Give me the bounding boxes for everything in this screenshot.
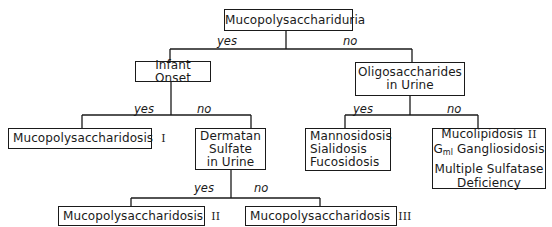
node-label: Mucopolysaccharidosis <box>13 131 153 145</box>
connector-lines <box>0 0 552 227</box>
node-dermatan-sulfate-in-urine: Dermatan Sulfate in Urine <box>195 128 266 170</box>
node-mucopolysacchariduria: Mucopolysacchariduria <box>224 9 353 31</box>
edge-label-yes: yes <box>353 102 373 116</box>
edge-label-yes: yes <box>134 102 154 116</box>
node-label-line2: in Urine <box>356 79 464 92</box>
node-label-line2: Gml Gangliosidosis <box>433 142 545 160</box>
node-label-line1: Dermatan <box>196 130 265 143</box>
edge-label-no: no <box>254 181 268 195</box>
edge-label-no: no <box>343 34 357 48</box>
node-label-line4: Deficiency <box>433 176 545 190</box>
node-label: Mucopolysacchariduria <box>225 14 352 27</box>
node-label: Mucopolysaccharidosis <box>250 209 390 223</box>
roman-numeral: III <box>398 210 411 223</box>
node-mannosidosis-group: Mannosidosis Sialidosis Fucosidosis <box>305 128 391 171</box>
node-label-line2: Sulfate <box>196 143 265 156</box>
roman-numeral: I <box>161 132 165 145</box>
node-mucopolysaccharidosis-i: MucopolysaccharidosisI <box>8 128 152 149</box>
node-label: Mucopolysaccharidosis <box>63 209 203 223</box>
node-mucopolysaccharidosis-ii: MucopolysaccharidosisII <box>58 206 205 226</box>
decision-tree-diagram: Mucopolysacchariduria yes no Infant Onse… <box>0 0 552 227</box>
edge-label-yes: yes <box>217 34 237 48</box>
node-label-line3: Multiple Sulfatase <box>433 162 545 176</box>
node-oligosaccharides-in-urine: Oligosaccharides in Urine <box>355 62 465 96</box>
node-mucolipidosis-group: MucolipidosisII Gml Gangliosidosis Multi… <box>432 128 546 189</box>
edge-label-no: no <box>447 102 461 116</box>
node-mucopolysaccharidosis-iii: MucopolysaccharidosisIII <box>245 206 397 226</box>
edge-label-no: no <box>197 102 211 116</box>
roman-numeral: II <box>528 128 537 141</box>
node-label-line1: MucolipidosisII <box>433 127 545 142</box>
node-label-line3: Fucosidosis <box>310 156 390 169</box>
node-label-line3: in Urine <box>196 156 265 169</box>
roman-numeral: II <box>211 210 220 223</box>
node-infant-onset: Infant Onset <box>135 61 211 82</box>
edge-label-yes: yes <box>194 181 214 195</box>
node-label: Infant Onset <box>136 59 210 85</box>
